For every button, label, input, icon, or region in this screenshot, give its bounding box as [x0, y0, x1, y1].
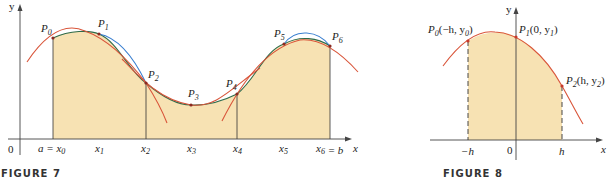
tick-x5: x5: [278, 142, 288, 156]
label-p2: P2: [147, 68, 159, 83]
label-p0-fig8: P0(−h, y0): [427, 23, 473, 38]
figure-8: P0(−h, y0) P1(0, y1) P2(h, y2) y x −h 0 …: [427, 3, 606, 160]
point-p4: [235, 92, 238, 95]
point-p2-fig8: [560, 84, 563, 87]
x-axis-arrow-icon: [345, 137, 352, 142]
figure-8-caption: FIGURE 8: [443, 168, 503, 179]
label-p1: P1: [97, 17, 109, 32]
tick-x1: x1: [94, 142, 104, 156]
label-p1-fig8: P1(0, y1): [518, 23, 558, 38]
y-axis-arrow-icon-fig8: [514, 7, 519, 14]
point-p1: [97, 32, 100, 35]
tick-h: h: [559, 145, 565, 157]
tick-minus-h: −h: [461, 145, 474, 157]
tick-x4: x4: [232, 142, 242, 156]
point-p0-fig8: [466, 39, 469, 42]
x-axis-arrow-icon-fig8: [596, 138, 603, 143]
x-axis-label-fig8: x: [600, 143, 606, 155]
figure-7: P0 P1 P2 P3 P4 P5 P6 y x 0 a = x0 x1 x2 …: [8, 0, 358, 156]
figures-canvas: P0 P1 P2 P3 P4 P5 P6 y x 0 a = x0 x1 x2 …: [0, 0, 614, 184]
label-p2-fig8: P2(h, y2): [565, 74, 605, 89]
label-p0: P0: [40, 22, 52, 37]
tick-x6: x6 = b: [315, 142, 344, 156]
label-p5: P5: [273, 27, 285, 42]
point-p6: [328, 44, 331, 47]
tick-x0: a = x0: [38, 142, 65, 156]
tick-x3: x3: [186, 142, 196, 156]
area-under-curve: [53, 31, 330, 139]
point-p1-fig8: [514, 35, 517, 38]
area-under-parabola: [468, 32, 562, 140]
point-p5: [282, 42, 285, 45]
origin-label-fig8: 0: [507, 144, 513, 156]
origin-label: 0: [8, 143, 14, 155]
y-axis-label-fig8: y: [506, 3, 512, 15]
y-axis-label: y: [9, 0, 15, 12]
point-p2: [144, 81, 147, 84]
y-axis-arrow-icon: [18, 4, 23, 11]
label-p3: P3: [187, 87, 199, 102]
point-p3: [189, 103, 192, 106]
label-p6: P6: [331, 30, 343, 45]
tick-x2: x2: [140, 142, 150, 156]
point-p0: [51, 36, 54, 39]
x-axis-label: x: [352, 142, 358, 154]
figure-7-caption: FIGURE 7: [1, 168, 61, 179]
